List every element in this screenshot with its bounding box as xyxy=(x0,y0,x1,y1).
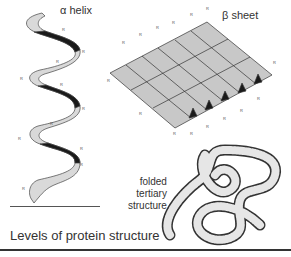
svg-text:R: R xyxy=(240,108,243,113)
diagram-caption: Levels of protein structure xyxy=(10,228,160,243)
svg-text:R: R xyxy=(206,6,209,11)
svg-text:R: R xyxy=(257,96,260,101)
svg-text:R: R xyxy=(122,40,125,45)
tertiary-structure-label: folded tertiary structure xyxy=(128,176,167,212)
tertiary-label-line-1: folded xyxy=(128,176,167,188)
svg-text:R: R xyxy=(206,124,209,129)
svg-text:R: R xyxy=(60,82,63,87)
svg-text:R: R xyxy=(18,136,21,141)
svg-text:R: R xyxy=(190,12,193,17)
svg-text:R: R xyxy=(223,116,226,121)
beta-sheet-label: β sheet xyxy=(222,9,258,21)
svg-text:R: R xyxy=(80,162,83,167)
svg-text:R: R xyxy=(107,78,110,83)
caption-divider xyxy=(10,206,100,207)
svg-text:R: R xyxy=(56,59,59,64)
svg-text:R: R xyxy=(82,106,85,111)
svg-text:R: R xyxy=(20,76,23,81)
svg-text:R: R xyxy=(156,25,159,30)
protein-structure-diagram: RRR RRR RRR RR RRR RRR RRR RRR RRR xyxy=(0,0,291,257)
alpha-helix-label: α helix xyxy=(60,4,92,16)
svg-text:R: R xyxy=(62,27,65,32)
svg-text:R: R xyxy=(80,146,83,151)
tertiary-label-line-2: tertiary xyxy=(128,188,167,200)
svg-text:R: R xyxy=(273,60,276,65)
svg-text:R: R xyxy=(82,49,85,54)
svg-text:R: R xyxy=(50,121,53,126)
svg-text:R: R xyxy=(190,131,193,136)
alpha-helix-ribbon xyxy=(26,13,80,203)
beta-sheet xyxy=(110,22,272,128)
bottom-divider xyxy=(0,249,291,251)
svg-text:R: R xyxy=(172,20,175,25)
svg-text:R: R xyxy=(22,186,25,191)
tertiary-structure-tube xyxy=(167,150,275,240)
svg-text:R: R xyxy=(173,131,176,136)
svg-text:R: R xyxy=(139,111,142,116)
svg-text:R: R xyxy=(139,32,142,37)
tertiary-label-line-3: structure xyxy=(128,200,167,212)
